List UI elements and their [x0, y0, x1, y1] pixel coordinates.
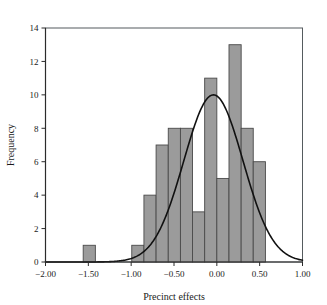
- x-tick-label: 1.00: [295, 269, 311, 279]
- x-tick-label: −2.00: [35, 269, 56, 279]
- histogram-bar: [180, 128, 192, 262]
- histogram-bar: [241, 128, 253, 262]
- x-tick-label: −1.00: [121, 269, 142, 279]
- y-tick-label: 2: [34, 224, 39, 234]
- histogram-bar: [83, 245, 95, 262]
- histogram-figure: −2.00−1.50−1.00−0.500.000.501.00 0246810…: [0, 0, 327, 305]
- histogram-bar: [144, 195, 156, 262]
- y-tick-label: 0: [34, 257, 39, 267]
- x-tick-label: −0.50: [164, 269, 185, 279]
- y-tick-label: 6: [34, 157, 39, 167]
- histogram-bar: [217, 178, 229, 262]
- y-tick-label: 12: [30, 57, 39, 67]
- y-tick-label: 8: [34, 124, 39, 134]
- y-tick-label: 4: [34, 190, 39, 200]
- x-tick-label: 0.00: [209, 269, 225, 279]
- histogram-bar: [193, 212, 205, 262]
- y-tick-label: 10: [30, 90, 40, 100]
- chart-canvas: −2.00−1.50−1.00−0.500.000.501.00 0246810…: [0, 0, 327, 305]
- x-tick-label: 0.50: [252, 269, 268, 279]
- histogram-bar: [229, 45, 241, 262]
- histogram-bar: [156, 145, 168, 262]
- histogram-bar: [205, 78, 217, 262]
- y-axis-label: Frequency: [5, 124, 16, 166]
- x-tick-label: −1.50: [78, 269, 99, 279]
- x-axis-label: Precinct effects: [143, 291, 205, 302]
- histogram-bar: [168, 128, 180, 262]
- y-tick-label: 14: [30, 23, 40, 33]
